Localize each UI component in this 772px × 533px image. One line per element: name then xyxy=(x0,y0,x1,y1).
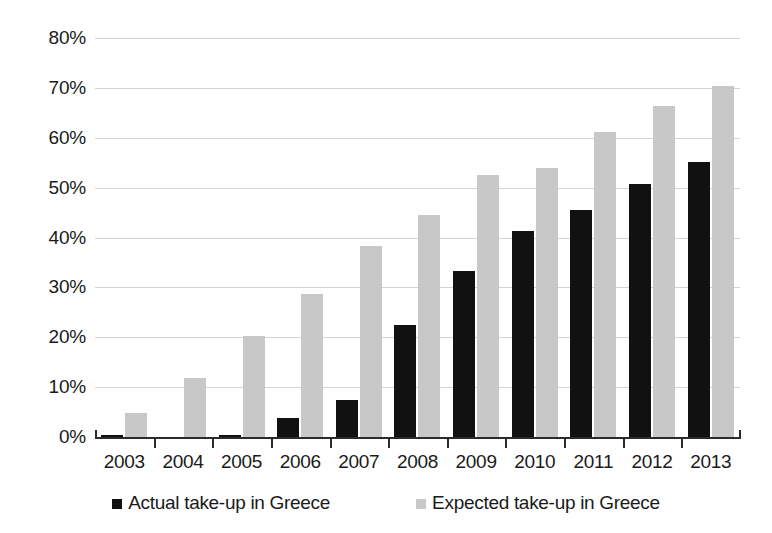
x-tick-6 xyxy=(505,439,507,448)
legend-item-actual[interactable]: Actual take-up in Greece xyxy=(112,492,330,513)
bar-group-2010 xyxy=(505,38,564,437)
bar-group-2007 xyxy=(330,38,389,437)
y-tick-label-10pct: 10% xyxy=(0,377,86,396)
legend-label-expected: Expected take-up in Greece xyxy=(432,492,660,513)
legend-item-expected[interactable]: Expected take-up in Greece xyxy=(416,492,660,513)
bar-expected-2008[interactable] xyxy=(418,215,440,437)
y-tick-label-20pct: 20% xyxy=(0,327,86,346)
x-axis-label-2005: 2005 xyxy=(212,452,271,472)
bar-actual-2008[interactable] xyxy=(394,325,416,437)
y-tick-label-40pct: 40% xyxy=(0,228,86,247)
bar-expected-2011[interactable] xyxy=(594,132,616,437)
x-tick-1 xyxy=(212,439,214,448)
x-tick-4 xyxy=(388,439,390,448)
bar-group-2005 xyxy=(212,38,271,437)
chart-legend: Actual take-up in Greece Expected take-u… xyxy=(0,492,772,513)
x-axis-label-2012: 2012 xyxy=(623,452,682,472)
x-tick-0 xyxy=(154,439,156,448)
bar-group-2004 xyxy=(154,38,213,437)
x-tick-7 xyxy=(564,439,566,448)
x-tick-3 xyxy=(330,439,332,448)
bar-actual-2011[interactable] xyxy=(570,210,592,437)
y-axis: 0%10%20%30%40%50%60%70%80% xyxy=(0,0,86,533)
bar-expected-2012[interactable] xyxy=(653,106,675,437)
bar-actual-2010[interactable] xyxy=(512,231,534,437)
bar-actual-2013[interactable] xyxy=(688,162,710,437)
x-axis-label-2008: 2008 xyxy=(388,452,447,472)
plot-area xyxy=(95,38,740,437)
y-tick-label-30pct: 30% xyxy=(0,277,86,296)
x-axis-label-2013: 2013 xyxy=(681,452,740,472)
bar-expected-2005[interactable] xyxy=(243,336,265,437)
x-tick-5 xyxy=(447,439,449,448)
bar-actual-2009[interactable] xyxy=(453,271,475,437)
x-axis-line xyxy=(95,437,741,439)
y-tick-label-70pct: 70% xyxy=(0,78,86,97)
legend-swatch-actual-icon xyxy=(112,499,122,509)
bar-expected-2010[interactable] xyxy=(536,168,558,437)
x-axis-left-cap xyxy=(95,430,97,439)
bar-actual-2007[interactable] xyxy=(336,400,358,437)
x-axis-label-2010: 2010 xyxy=(505,452,564,472)
x-axis-label-2011: 2011 xyxy=(564,452,623,472)
legend-swatch-expected-icon xyxy=(416,499,426,509)
bar-group-2012 xyxy=(623,38,682,437)
bar-expected-2006[interactable] xyxy=(301,294,323,437)
bar-actual-2012[interactable] xyxy=(629,184,651,437)
bar-expected-2007[interactable] xyxy=(360,246,382,437)
y-tick-label-0pct: 0% xyxy=(0,427,86,446)
legend-label-actual: Actual take-up in Greece xyxy=(128,492,330,513)
bar-expected-2009[interactable] xyxy=(477,175,499,437)
x-tick-8 xyxy=(623,439,625,448)
bar-expected-2004[interactable] xyxy=(184,378,206,437)
x-tick-2 xyxy=(271,439,273,448)
x-axis-label-2007: 2007 xyxy=(330,452,389,472)
bar-group-2006 xyxy=(271,38,330,437)
x-axis-label-2009: 2009 xyxy=(447,452,506,472)
x-tick-9 xyxy=(681,439,683,448)
x-axis-label-2006: 2006 xyxy=(271,452,330,472)
y-tick-label-80pct: 80% xyxy=(0,28,86,47)
bar-actual-2006[interactable] xyxy=(277,418,299,437)
bar-expected-2013[interactable] xyxy=(712,86,734,437)
y-tick-label-60pct: 60% xyxy=(0,128,86,147)
bar-group-2013 xyxy=(681,38,740,437)
bar-expected-2003[interactable] xyxy=(125,413,147,437)
x-axis-label-2004: 2004 xyxy=(154,452,213,472)
bar-group-2008 xyxy=(388,38,447,437)
bar-group-2011 xyxy=(564,38,623,437)
y-tick-label-50pct: 50% xyxy=(0,178,86,197)
bar-group-2003 xyxy=(95,38,154,437)
x-axis-label-2003: 2003 xyxy=(95,452,154,472)
x-axis-right-cap xyxy=(739,430,741,439)
bar-chart: 0%10%20%30%40%50%60%70%80% 2003200420052… xyxy=(0,0,772,533)
bar-group-2009 xyxy=(447,38,506,437)
